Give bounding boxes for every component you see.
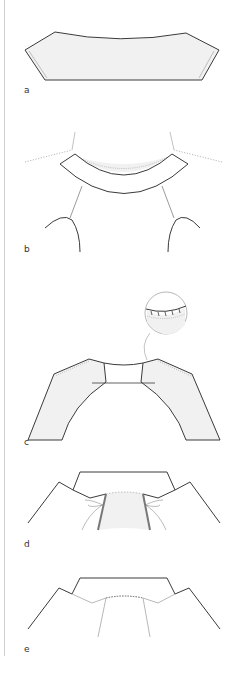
figure-label-e: e bbox=[24, 645, 30, 654]
figure-b-neckband bbox=[25, 132, 222, 252]
figure-label-b: b bbox=[24, 245, 30, 254]
figure-e-finished bbox=[28, 578, 220, 637]
figure-d-assembly bbox=[28, 472, 220, 530]
figure-a-yoke-piece bbox=[25, 32, 219, 80]
figure-label-a: a bbox=[24, 86, 30, 95]
figure-label-c: c bbox=[24, 438, 29, 447]
figure-label-d: d bbox=[24, 540, 30, 549]
sewing-diagram bbox=[0, 0, 233, 673]
figure-c-raglan-detail bbox=[28, 292, 220, 440]
